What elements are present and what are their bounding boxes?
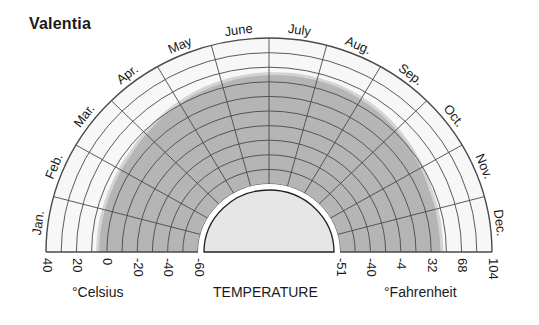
celsius-tick: -20: [131, 258, 146, 277]
celsius-tick: 40: [40, 258, 55, 272]
celsius-tick: 0: [100, 258, 115, 265]
fahrenheit-tick: 32: [425, 258, 440, 272]
celsius-caption: °Celsius: [72, 284, 124, 300]
polar-temperature-chart: Jan.Feb.Mar.Apr.MayJuneJulyAug.Sep.Oct.N…: [0, 0, 539, 325]
temperature-caption: TEMPERATURE: [213, 284, 318, 300]
month-label: Jan.: [29, 210, 47, 236]
fahrenheit-tick: 104: [486, 258, 501, 280]
axis-tick-labels: 40200-20-40-60-51-40-43268104: [40, 258, 501, 280]
celsius-tick: -40: [161, 258, 176, 277]
fahrenheit-tick: 68: [455, 258, 470, 272]
celsius-tick: 20: [70, 258, 85, 272]
month-label: June: [224, 21, 254, 40]
fahrenheit-tick: -51: [334, 258, 349, 277]
month-label: Dec.: [491, 209, 509, 237]
month-label: July: [287, 21, 312, 39]
celsius-tick: -60: [192, 258, 207, 277]
fahrenheit-tick: -40: [364, 258, 379, 277]
fahrenheit-tick: -4: [394, 258, 409, 270]
fahrenheit-caption: °Fahrenheit: [384, 284, 457, 300]
